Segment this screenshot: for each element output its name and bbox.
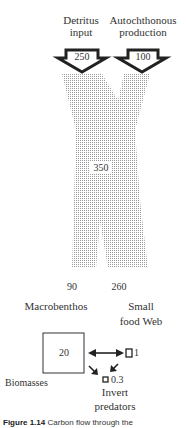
invert-predators-label: Invert predators (90, 386, 140, 412)
small-food-web-label-line2: food Web (116, 315, 166, 327)
macrobenthos-to-predator-arrow (89, 366, 98, 375)
small-food-web-flow-value: 260 (106, 281, 132, 293)
macrobenthos-biomass-value: 20 (50, 347, 78, 359)
macrobenthos-flow-value: 90 (62, 281, 82, 293)
autochthonous-value: 100 (129, 51, 157, 63)
food-web-to-predator-arrow (110, 364, 118, 372)
invert-predators-label-line1: Invert (90, 386, 140, 398)
autochthonous-label-line2: production (106, 26, 180, 38)
detritus-label: Detritus input (58, 14, 104, 38)
detritus-value: 250 (68, 51, 96, 63)
detritus-label-line1: Detritus (58, 14, 104, 26)
diagram-canvas (0, 0, 186, 428)
figure-number: Figure 1.14 (3, 418, 45, 427)
detritus-label-line2: input (58, 26, 104, 38)
caption-text: Carbon flow through the (47, 418, 132, 427)
autochthonous-label: Autochthonous production (106, 14, 180, 38)
exchange-double-arrow (88, 349, 124, 357)
biomasses-label: Biomasses (5, 377, 65, 389)
figure-caption: Figure 1.14 Carbon flow through the (3, 418, 133, 427)
small-food-web-biomass-value: 1 (134, 347, 142, 359)
invert-predators-biomass-box (103, 377, 108, 382)
small-food-web-biomass-box (126, 349, 132, 357)
invert-predators-biomass-value: 0.3 (111, 374, 131, 386)
total-flow-value: 350 (90, 162, 112, 174)
small-food-web-label: Small food Web (116, 300, 166, 327)
invert-predators-label-line2: predators (90, 400, 140, 412)
macrobenthos-label: Macrobenthos (16, 300, 96, 312)
small-food-web-label-line1: Small (116, 300, 166, 312)
autochthonous-label-line1: Autochthonous (106, 14, 180, 26)
